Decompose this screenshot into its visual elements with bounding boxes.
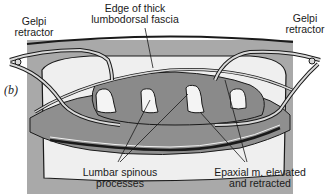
label-line: retractor	[4, 27, 64, 38]
label-line: retractor	[275, 24, 330, 35]
gelpi-retractor-left-label: Gelpi retractor	[4, 16, 64, 38]
surgical-diagram: Gelpi retractor Edge of thick lumbodorsa…	[0, 0, 330, 194]
spinous-process-4	[230, 89, 246, 109]
label-line: lumbodorsal fascia	[90, 14, 180, 25]
lumbar-spinous-processes-label: Lumbar spinous processes	[60, 167, 180, 189]
label-line: and retracted	[200, 178, 320, 189]
gelpi-retractor-right-label: Gelpi retractor	[275, 13, 330, 35]
epaxial-muscle-label: Epaxial m. elevated and retracted	[200, 167, 320, 189]
panel-label: (b)	[4, 83, 18, 98]
fascia-label: Edge of thick lumbodorsal fascia	[90, 3, 180, 25]
label-line: processes	[60, 178, 180, 189]
